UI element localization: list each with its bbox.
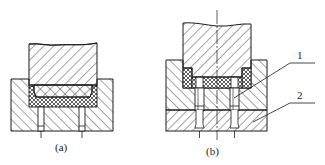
punch-a: [29, 43, 97, 97]
panel-a: [11, 43, 113, 138]
callout-label-1: 1: [297, 49, 303, 61]
caption-a: (a): [55, 141, 67, 153]
bolt-right-a: [79, 107, 85, 138]
lower-plate-b: [166, 110, 267, 131]
diagram-canvas: [0, 0, 325, 165]
bolt-left-a: [38, 107, 44, 138]
panel-b: [166, 10, 315, 140]
caption-b: (b): [206, 145, 219, 157]
callout-label-2: 2: [297, 89, 303, 101]
